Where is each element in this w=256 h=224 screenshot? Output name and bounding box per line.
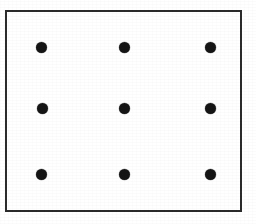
grid-dot[interactable] [36,42,47,53]
figure-canvas: A plain rectangular frame enclosing a th… [0,0,256,224]
grid-dot[interactable] [36,169,47,180]
grid-dot[interactable] [205,42,216,53]
grid-dot[interactable] [119,169,130,180]
figure-caption: A plain rectangular frame enclosing a th… [0,0,1,1]
grid-dot[interactable] [37,103,48,114]
grid-dot[interactable] [119,103,130,114]
grid-dot[interactable] [205,169,216,180]
grid-dot[interactable] [205,103,216,114]
grid-dot[interactable] [119,42,130,53]
